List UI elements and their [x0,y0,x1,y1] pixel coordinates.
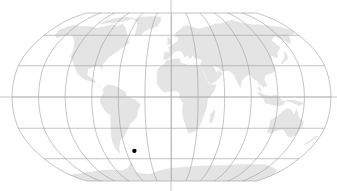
land-layer [55,16,318,181]
landmass-antarctica [69,162,277,181]
landmass-greenland [133,16,161,35]
location-marker[interactable] [132,149,136,153]
marker-layer [132,149,136,153]
world-map[interactable] [0,0,337,191]
landmass-north-america [55,24,129,89]
landmass-indonesia [256,92,305,107]
landmass-south-america [100,85,141,154]
landmass-madagascar [209,110,215,124]
landmass-australia [267,108,304,137]
map-canvas[interactable] [0,0,337,191]
landmass-new-zealand [303,136,318,145]
landmass-japan [281,50,288,65]
